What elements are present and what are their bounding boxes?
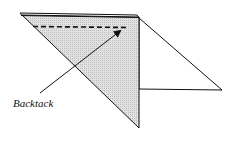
shaded-fabric-panel — [22, 15, 139, 128]
backtack-label: Backtack — [13, 97, 53, 109]
right-flap — [139, 18, 222, 90]
fabric-fold-diagram — [0, 0, 233, 142]
